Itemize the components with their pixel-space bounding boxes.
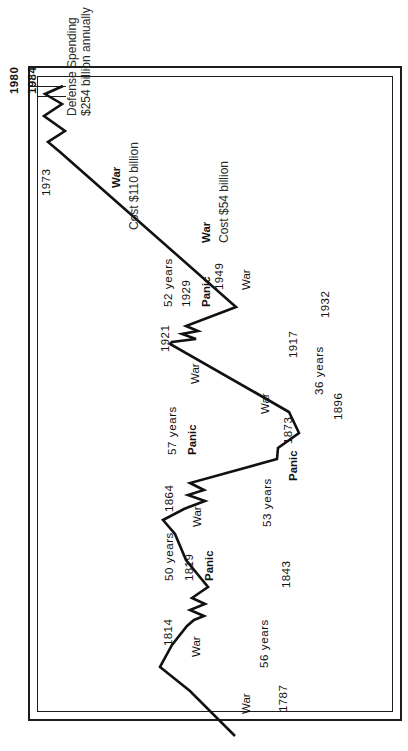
- panic-label-1873: Panic: [186, 424, 198, 455]
- war-label-ww2: War: [240, 269, 252, 290]
- war-label-revolution: War: [240, 693, 252, 714]
- war-label-civil-war-end: War: [259, 393, 271, 414]
- year-label-1873: 1873: [282, 417, 294, 444]
- axis-label-1984: 1984: [26, 67, 38, 94]
- annotation-cost-54-billion: Cost $54 billion: [218, 161, 231, 243]
- annotation-defense-spending-line2: $254 billion annually: [80, 7, 93, 116]
- year-label-1949: 1949: [213, 263, 225, 290]
- year-label-1864: 1864: [163, 485, 175, 512]
- year-label-1917: 1917: [287, 331, 299, 358]
- annotation-defense-spending-line1: Defense Spending: [66, 17, 79, 116]
- span-label-57-years: 57 years: [166, 406, 178, 455]
- axis-label-1980: 1980: [8, 67, 20, 94]
- panic-label-1929: Panic: [200, 276, 212, 307]
- year-label-1819: 1819: [183, 554, 195, 581]
- year-label-1843: 1843: [280, 561, 292, 588]
- panic-label-1837: Panic: [287, 450, 299, 481]
- war-label-civil-war: War: [191, 506, 203, 527]
- annotation-cost-110-billion: Cost $110 billion: [128, 142, 141, 230]
- span-label-53-years: 53 years: [261, 478, 273, 527]
- war-label-ww1: War: [189, 363, 201, 384]
- year-label-1929: 1929: [180, 280, 192, 307]
- span-label-52-years: 52 years: [162, 258, 174, 307]
- year-label-1896: 1896: [332, 393, 344, 420]
- year-label-1787: 1787: [277, 685, 289, 712]
- year-label-1921: 1921: [159, 325, 171, 352]
- war-label-korea: War: [200, 222, 212, 243]
- chart-page: 1984 1980 Defense Spending $254 billion …: [0, 0, 408, 751]
- span-label-50-years: 50 years: [163, 532, 175, 581]
- war-label-vietnam: War: [110, 167, 122, 188]
- year-label-1932: 1932: [319, 291, 331, 318]
- span-label-36-years: 36 years: [313, 346, 325, 395]
- year-label-1814: 1814: [162, 619, 174, 646]
- span-label-56-years: 56 years: [258, 619, 270, 668]
- panic-label-1819: Panic: [203, 550, 215, 581]
- war-label-1812: War: [190, 636, 202, 657]
- year-label-1973: 1973: [40, 169, 52, 196]
- chart-stage: 1984 1980 Defense Spending $254 billion …: [0, 0, 408, 751]
- economic-cycle-line: [0, 0, 408, 751]
